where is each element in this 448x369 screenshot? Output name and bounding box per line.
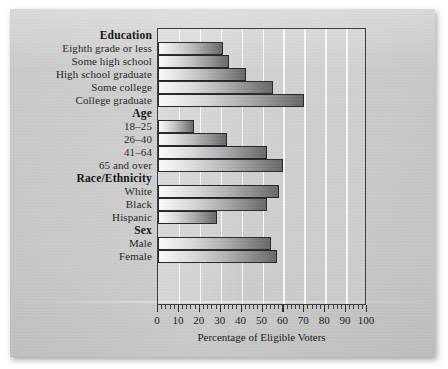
bar-row xyxy=(158,237,366,250)
major-tick-90 xyxy=(345,305,346,312)
minor-tick-76 xyxy=(316,305,317,309)
category-label-eighth-grade-or-less: Eighth grade or less xyxy=(0,42,152,55)
minor-tick-32 xyxy=(224,305,225,309)
tick-label-20: 20 xyxy=(193,313,204,327)
bar-41-64 xyxy=(158,146,267,159)
group-label-education: Education xyxy=(0,29,152,42)
major-tick-60 xyxy=(282,305,283,312)
major-tick-0 xyxy=(157,305,158,312)
tick-label-90: 90 xyxy=(340,313,351,327)
bar-white xyxy=(158,185,279,198)
x-axis-title: Percentage of Eligible Voters xyxy=(157,331,366,343)
tick-label-60: 60 xyxy=(277,313,288,327)
bar-hispanic xyxy=(158,211,217,224)
minor-tick-6 xyxy=(170,305,171,309)
major-tick-80 xyxy=(324,305,325,312)
bar-row xyxy=(158,159,366,172)
minor-tick-22 xyxy=(203,305,204,309)
bar-row xyxy=(158,211,366,224)
minor-tick-16 xyxy=(190,305,191,309)
minor-tick-8 xyxy=(174,305,175,309)
minor-tick-92 xyxy=(349,305,350,309)
bar-row xyxy=(158,146,366,159)
tick-label-40: 40 xyxy=(235,313,246,327)
minor-tick-68 xyxy=(299,305,300,309)
minor-tick-66 xyxy=(295,305,296,309)
bar-row xyxy=(158,55,366,68)
minor-tick-28 xyxy=(216,305,217,309)
bar-chart: EducationEighth grade or lessSome high s… xyxy=(10,9,435,357)
minor-tick-42 xyxy=(245,305,246,309)
minor-tick-94 xyxy=(353,305,354,309)
tick-label-30: 30 xyxy=(214,313,225,327)
minor-tick-88 xyxy=(341,305,342,309)
major-tick-50 xyxy=(262,305,263,312)
minor-tick-2 xyxy=(161,305,162,309)
major-tick-100 xyxy=(366,305,367,312)
minor-tick-86 xyxy=(337,305,338,309)
category-label-white: White xyxy=(0,185,152,198)
bar-female xyxy=(158,250,277,263)
bar-high-school-graduate xyxy=(158,68,246,81)
minor-tick-52 xyxy=(266,305,267,309)
minor-tick-74 xyxy=(312,305,313,309)
major-tick-70 xyxy=(303,305,304,312)
bar-some-high-school xyxy=(158,55,229,68)
category-label-26-40: 26–40 xyxy=(0,133,152,146)
tick-label-100: 100 xyxy=(358,313,375,327)
bar-row xyxy=(158,250,366,263)
bar-some-college xyxy=(158,81,273,94)
bar-26-40 xyxy=(158,133,227,146)
bar-18-25 xyxy=(158,120,194,133)
minor-tick-36 xyxy=(232,305,233,309)
scanned-page-card: EducationEighth grade or lessSome high s… xyxy=(10,9,435,357)
minor-tick-64 xyxy=(291,305,292,309)
bar-row xyxy=(158,81,366,94)
tick-label-0: 0 xyxy=(154,313,160,327)
minor-tick-14 xyxy=(186,305,187,309)
minor-tick-34 xyxy=(228,305,229,309)
category-label-65-and-over: 65 and over xyxy=(0,159,152,172)
group-label-sex: Sex xyxy=(0,224,152,237)
screenshot-root: EducationEighth grade or lessSome high s… xyxy=(0,0,448,369)
group-label-race-ethnicity: Race/Ethnicity xyxy=(0,172,152,185)
tick-label-50: 50 xyxy=(256,313,267,327)
category-label-male: Male xyxy=(0,237,152,250)
tick-label-10: 10 xyxy=(172,313,183,327)
minor-tick-82 xyxy=(328,305,329,309)
minor-tick-62 xyxy=(287,305,288,309)
minor-tick-44 xyxy=(249,305,250,309)
major-tick-10 xyxy=(178,305,179,312)
bar-row xyxy=(158,185,366,198)
tick-label-80: 80 xyxy=(319,313,330,327)
bar-college-graduate xyxy=(158,94,304,107)
bar-row xyxy=(158,133,366,146)
category-label-high-school-graduate: High school graduate xyxy=(0,68,152,81)
minor-tick-4 xyxy=(165,305,166,309)
minor-tick-84 xyxy=(333,305,334,309)
bar-male xyxy=(158,237,271,250)
category-label-black: Black xyxy=(0,198,152,211)
category-label-18-25: 18–25 xyxy=(0,120,152,133)
category-label-hispanic: Hispanic xyxy=(0,211,152,224)
minor-tick-58 xyxy=(278,305,279,309)
minor-tick-78 xyxy=(320,305,321,309)
minor-tick-48 xyxy=(257,305,258,309)
bar-row xyxy=(158,94,366,107)
minor-tick-12 xyxy=(182,305,183,309)
group-label-age: Age xyxy=(0,107,152,120)
minor-tick-56 xyxy=(274,305,275,309)
minor-tick-46 xyxy=(253,305,254,309)
minor-tick-18 xyxy=(195,305,196,309)
minor-tick-98 xyxy=(362,305,363,309)
bar-black xyxy=(158,198,267,211)
category-label-41-64: 41–64 xyxy=(0,146,152,159)
plot-area xyxy=(157,28,366,305)
minor-tick-54 xyxy=(270,305,271,309)
category-label-female: Female xyxy=(0,250,152,263)
category-label-college-graduate: College graduate xyxy=(0,94,152,107)
major-tick-30 xyxy=(220,305,221,312)
bar-row xyxy=(158,42,366,55)
minor-tick-96 xyxy=(358,305,359,309)
minor-tick-38 xyxy=(236,305,237,309)
